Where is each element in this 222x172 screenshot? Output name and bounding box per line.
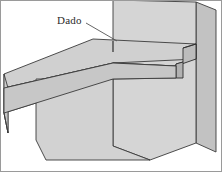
dado-groove-inner-face <box>176 62 183 78</box>
vertical-board-front-face <box>113 0 196 160</box>
vertical-board-right-edge-face <box>196 2 216 152</box>
dado-joint-illustration: Dado <box>0 0 222 172</box>
dado-label: Dado <box>57 14 82 26</box>
dado-joint-figure: Dado <box>0 0 222 172</box>
